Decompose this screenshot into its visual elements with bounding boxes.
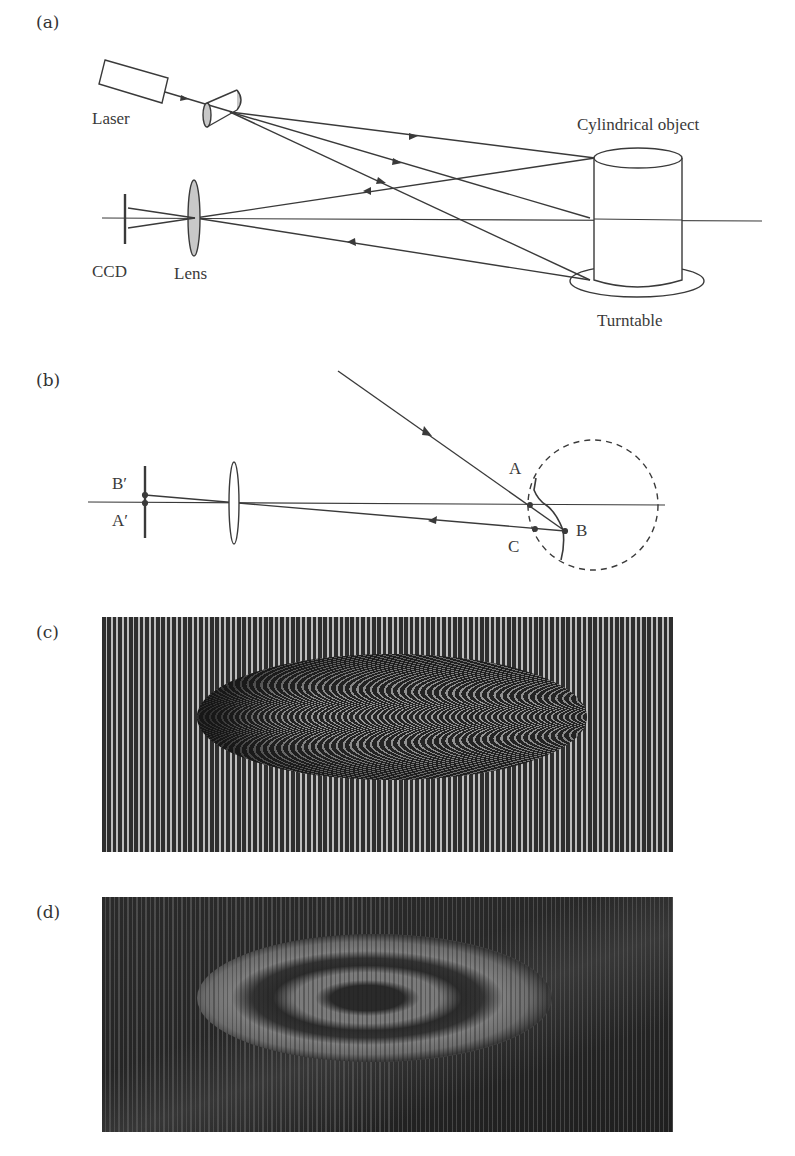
- label-point-c: C: [508, 537, 519, 556]
- label-cylindrical-object: Cylindrical object: [577, 115, 700, 134]
- reflected-ray-2: [195, 218, 590, 280]
- label-point-a-prime: A′: [112, 511, 128, 530]
- reflected-ray-1: [195, 158, 595, 218]
- label-laser: Laser: [92, 109, 130, 128]
- panel-a-diagram: [99, 60, 762, 297]
- cylindrical-object-icon: [570, 148, 704, 297]
- label-ccd: CCD: [92, 262, 127, 281]
- lens-icon-b: [229, 462, 239, 544]
- deformed-fringe-image: [102, 617, 673, 852]
- panel-b-diagram: [88, 371, 665, 570]
- optical-axis-b: [88, 502, 665, 505]
- laser-beam: [165, 92, 232, 112]
- point-c-marker: [533, 527, 537, 531]
- point-a-prime-marker: [143, 501, 148, 506]
- concentric-contour-region: [197, 934, 552, 1062]
- label-point-a: A: [509, 459, 522, 478]
- label-lens: Lens: [174, 264, 207, 283]
- point-a-marker: [528, 503, 532, 507]
- projection-ray-2: [230, 112, 590, 218]
- panel-label-c: (c): [36, 622, 59, 642]
- optical-diagrams: Laser Cylindrical object Turntable CCD L…: [0, 0, 795, 600]
- point-b-marker: [563, 529, 568, 534]
- reflected-ray-b: [145, 495, 565, 531]
- label-point-b-prime: B′: [112, 474, 127, 493]
- moire-contour-image: [102, 897, 673, 1132]
- laser-icon: [99, 60, 168, 103]
- curved-fringe-region: [197, 654, 587, 780]
- label-turntable: Turntable: [597, 311, 663, 330]
- point-b-prime-marker: [143, 493, 148, 498]
- label-point-b: B: [576, 521, 587, 540]
- panel-label-d: (d): [36, 902, 60, 922]
